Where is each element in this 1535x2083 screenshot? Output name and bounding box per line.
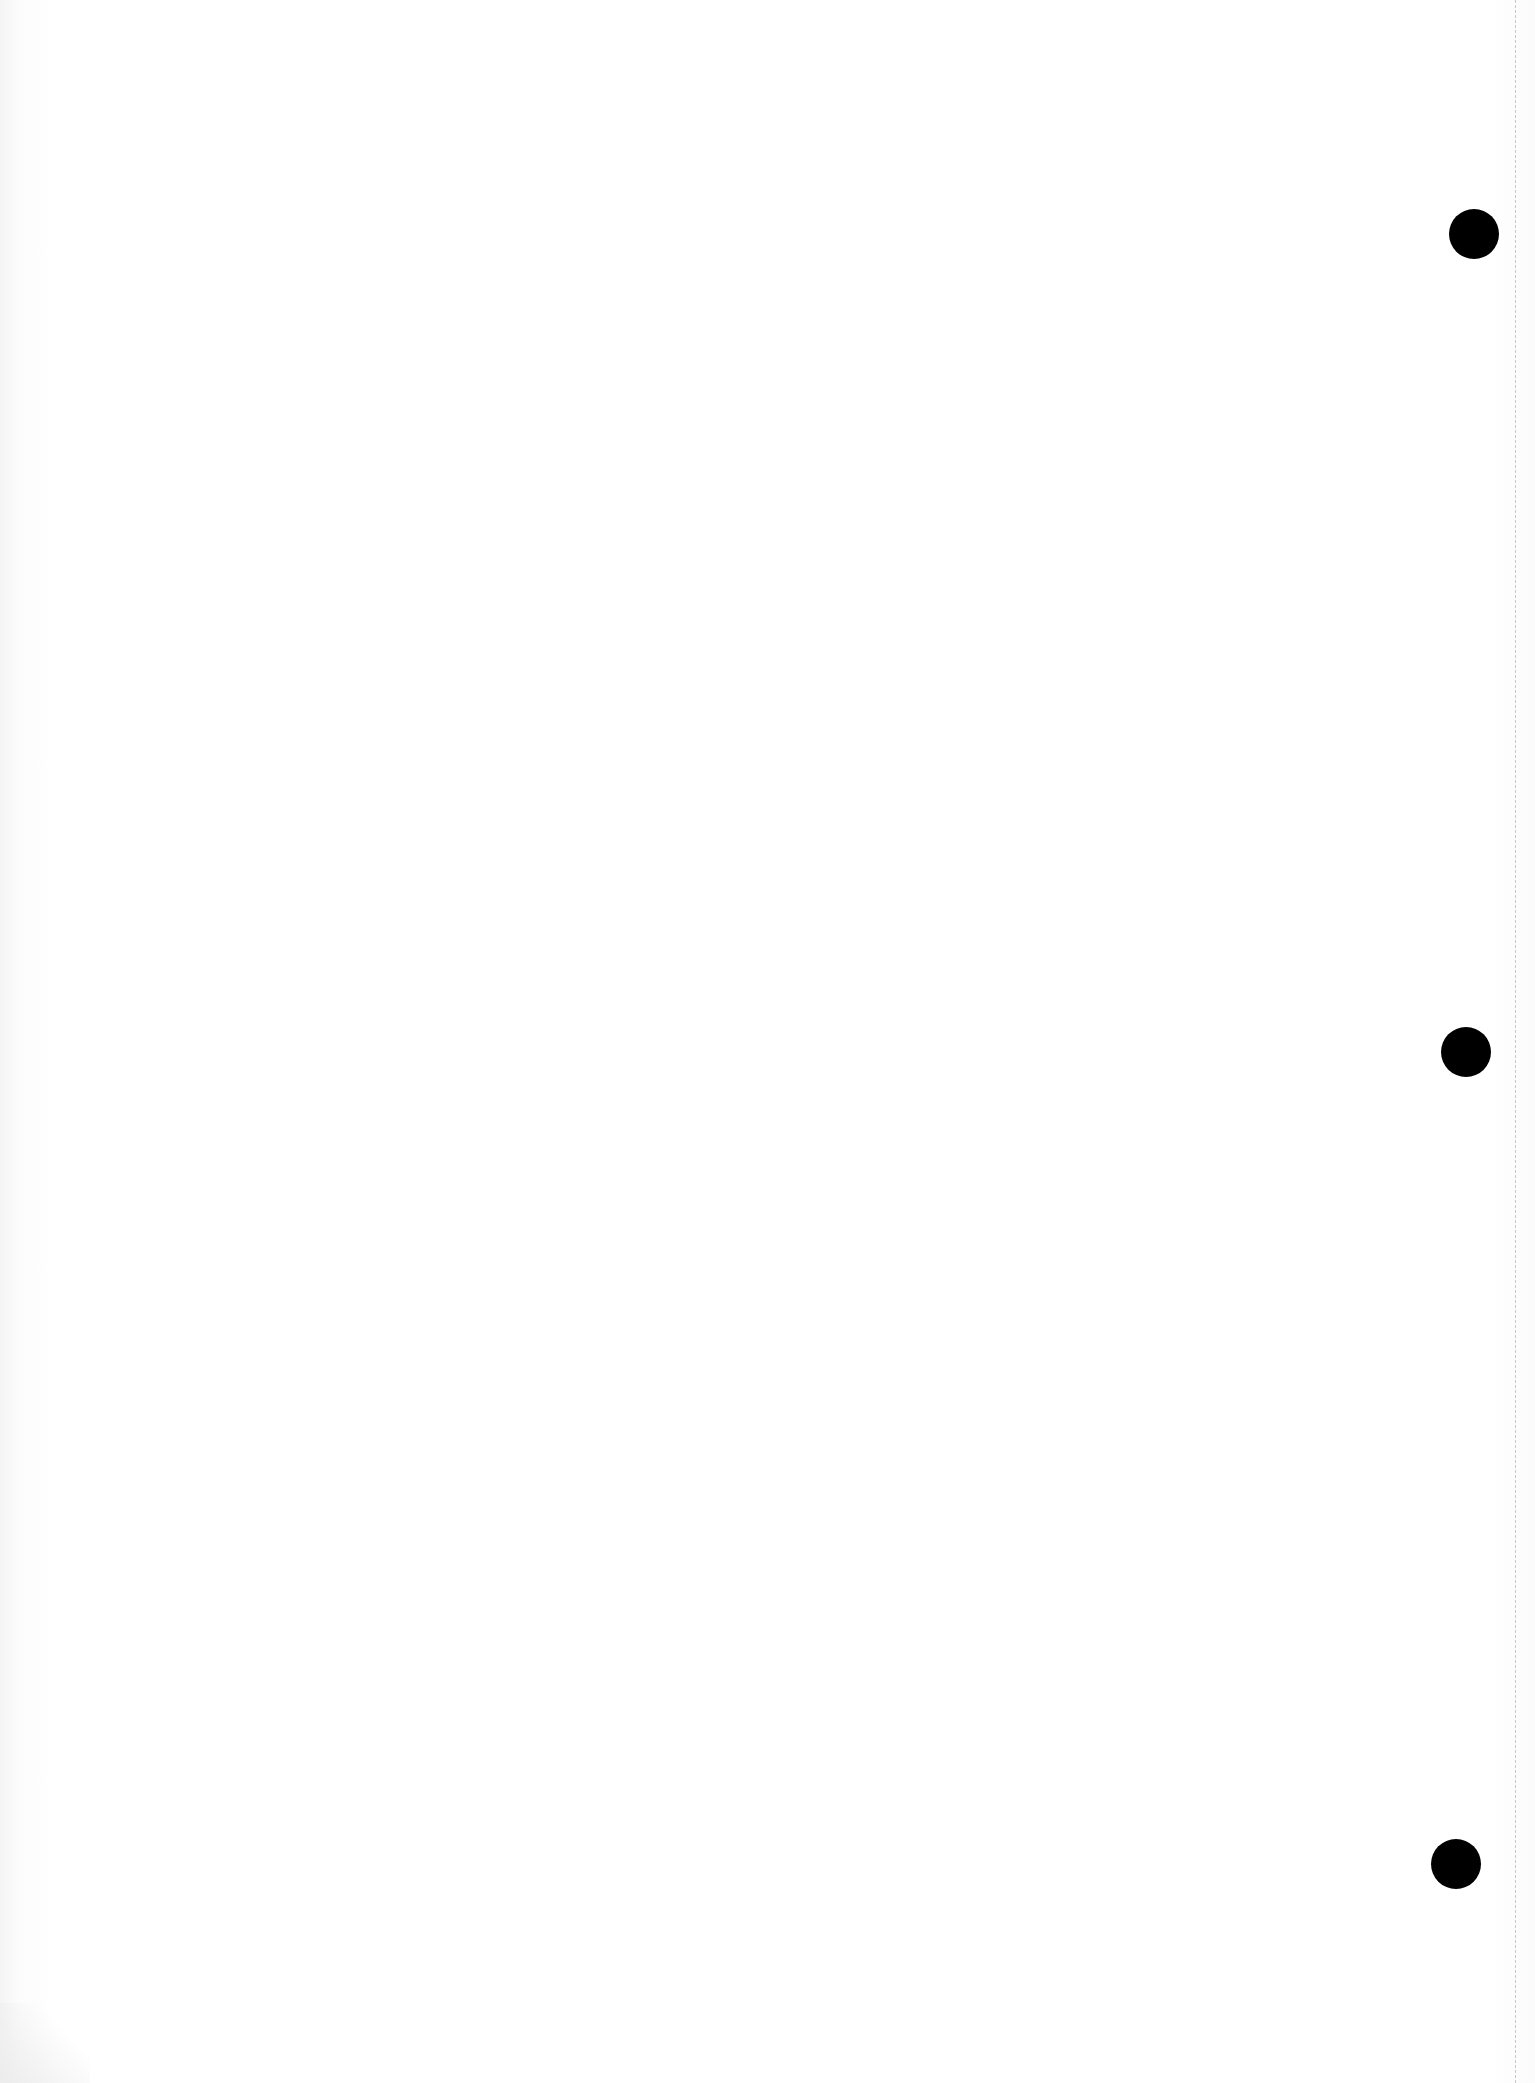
punch-hole-bottom [1431, 1839, 1481, 1889]
scanned-page [0, 0, 1535, 2083]
page-corner-shadow [0, 2003, 90, 2083]
punch-hole-top [1449, 209, 1499, 259]
page-edge-perforation [1515, 0, 1516, 2083]
punch-hole-middle [1441, 1027, 1491, 1077]
